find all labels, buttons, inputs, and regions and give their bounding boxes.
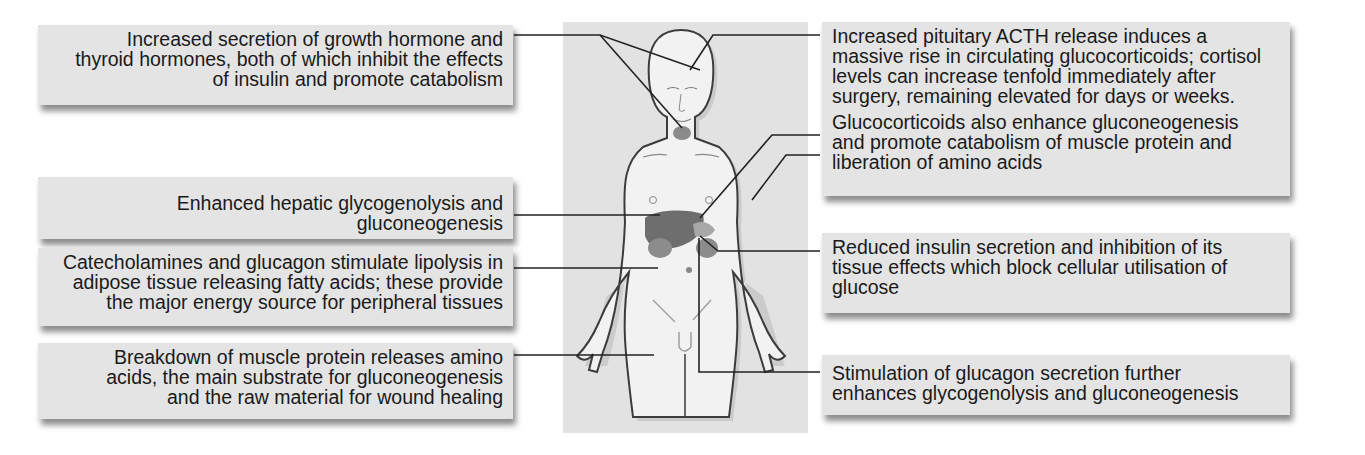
label-line: Reduced insulin secretion and inhibition…: [832, 237, 1280, 257]
glucocorticoids-paragraph: Glucocorticoids also enhance gluconeogen…: [832, 112, 1280, 172]
label-line: surgery, remaining elevated for days or …: [832, 86, 1280, 106]
human-body-illustration: [563, 22, 808, 433]
label-line: of insulin and promote catabolism: [48, 69, 503, 89]
label-line: Stimulation of glucagon secretion furthe…: [832, 363, 1280, 383]
label-line: massive rise in circulating glucocortico…: [832, 46, 1280, 66]
label-line: enhances glycogenolysis and gluconeogene…: [832, 383, 1280, 403]
label-lipolysis: Catecholamines and glucagon stimulate li…: [38, 248, 513, 326]
label-reduced-insulin: Reduced insulin secretion and inhibition…: [822, 233, 1290, 313]
label-acth-glucocorticoids: Increased pituitary ACTH release induces…: [822, 22, 1290, 196]
label-glucagon-stimulation: Stimulation of glucagon secretion furthe…: [822, 355, 1290, 415]
label-line: and promote catabolism of muscle protein…: [832, 132, 1280, 152]
label-line: adipose tissue releasing fatty acids; th…: [48, 272, 503, 292]
label-line: acids, the main substrate for gluconeoge…: [48, 367, 503, 387]
label-line: Glucocorticoids also enhance gluconeogen…: [832, 112, 1280, 132]
label-line: and the raw material for wound healing: [48, 387, 503, 407]
label-line: levels can increase tenfold immediately …: [832, 66, 1280, 86]
label-line: liberation of amino acids: [832, 152, 1280, 172]
label-line: gluconeogenesis: [48, 213, 503, 233]
label-growth-thyroid-hormones: Increased secretion of growth hormone an…: [38, 25, 513, 105]
label-muscle-protein-breakdown: Breakdown of muscle protein releases ami…: [38, 343, 513, 419]
label-line: the major energy source for peripheral t…: [48, 292, 503, 312]
thyroid-gland: [673, 126, 691, 140]
body-figure-panel: [563, 22, 808, 433]
label-line: tissue effects which block cellular util…: [832, 257, 1280, 277]
label-hepatic-glycogenolysis: Enhanced hepatic glycogenolysis and gluc…: [38, 177, 513, 239]
label-line: Enhanced hepatic glycogenolysis and: [48, 193, 503, 213]
label-line: Catecholamines and glucagon stimulate li…: [48, 252, 503, 272]
label-line: Increased secretion of growth hormone an…: [48, 29, 503, 49]
kidney-right: [696, 238, 718, 258]
label-line: Breakdown of muscle protein releases ami…: [48, 347, 503, 367]
kidney-left: [648, 238, 672, 258]
label-line: glucose: [832, 277, 1280, 297]
label-line: thyroid hormones, both of which inhibit …: [48, 49, 503, 69]
label-line: Increased pituitary ACTH release induces…: [832, 26, 1280, 46]
acth-paragraph: Increased pituitary ACTH release induces…: [832, 26, 1280, 106]
